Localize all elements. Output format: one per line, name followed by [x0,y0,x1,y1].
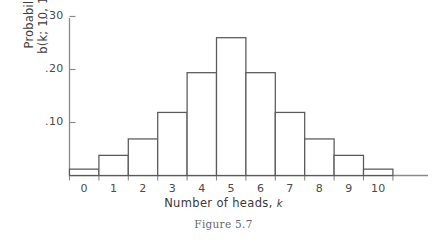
x-tick-label: 2 [128,182,158,195]
x-tick-label: 8 [304,182,334,195]
x-axis-label-symbol: k [277,198,283,209]
x-tick-label: 4 [187,182,217,195]
x-tick-label: 6 [246,182,276,195]
y-tick-label: .30 [38,9,64,22]
x-axis-label-text: Number of heads, [164,196,277,210]
histogram-bar [334,155,363,175]
x-tick-label: 10 [363,182,393,195]
figure-container: Probability b(k; 10, 1/2) .10.20.30 0123… [0,0,447,244]
histogram-bar [305,139,334,176]
x-axis-ticks [70,176,393,181]
x-tick-label: 3 [157,182,187,195]
x-tick-label: 9 [334,182,364,195]
histogram-bar [128,139,157,176]
y-axis-ticks [70,17,76,123]
x-tick-label: 5 [216,182,246,195]
x-tick-label: 0 [69,182,99,195]
histogram-bar [99,155,128,175]
x-axis-label: Number of heads, k [0,196,447,210]
histogram-bar [187,73,216,176]
y-tick-label: .20 [38,62,64,75]
y-tick-label: .10 [38,115,64,128]
histogram-bars [70,38,393,176]
x-tick-label: 1 [99,182,129,195]
histogram-bar [364,169,393,175]
histogram-bar [158,112,187,175]
figure-caption: Figure 5.7 [0,218,447,230]
histogram-bar [246,73,275,176]
x-tick-label: 7 [275,182,305,195]
histogram-bar [217,38,246,176]
histogram-bar [275,112,304,175]
histogram-bar [70,169,99,175]
